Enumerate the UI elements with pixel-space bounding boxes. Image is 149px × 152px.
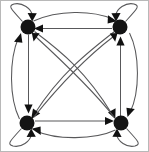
- top-left-node[interactable]: [21, 20, 36, 35]
- self-loop-top-right: [116, 4, 137, 22]
- bottom-right-node[interactable]: [114, 116, 129, 131]
- edge-top-left-to-bottom-left-arrowhead: [24, 105, 32, 114]
- edge-bottom-right-to-top-left-arrowhead: [32, 33, 40, 42]
- edge-top-left-to-top-right: [34, 12, 113, 21]
- bottom-left-node[interactable]: [20, 116, 35, 131]
- graph-figure: [0, 0, 149, 152]
- edge-top-right-to-bottom-left-arrowhead: [31, 108, 40, 119]
- edge-bottom-left-to-top-left: [11, 38, 19, 120]
- edge-bottom-right-to-bottom-left: [36, 130, 116, 138]
- diagonal-edge-group: [31, 32, 117, 120]
- right-edge-group: [116, 33, 137, 117]
- top-edge-group: [34, 12, 118, 32]
- edge-bottom-left-to-top-left-arrowhead: [14, 33, 22, 43]
- edge-bottom-left-to-bottom-right-arrowhead: [105, 117, 114, 125]
- self-loop-top-left: [11, 4, 32, 22]
- edge-bottom-left-to-top-right-arrowhead: [110, 33, 118, 42]
- edge-bottom-right-to-top-left: [36, 37, 115, 118]
- edge-top-right-to-bottom-right: [130, 33, 138, 113]
- graph-canvas: [0, 0, 149, 152]
- self-loop-bottom-right: [117, 129, 138, 147]
- edge-bottom-right-to-top-right-arrowhead: [116, 37, 124, 46]
- edge-top-right-to-bottom-right-arrowhead: [126, 108, 134, 117]
- self-loop-bottom-left: [10, 129, 31, 147]
- edge-bottom-left-to-top-right: [34, 37, 114, 118]
- bottom-edge-group: [32, 117, 116, 138]
- top-right-node[interactable]: [113, 20, 128, 35]
- left-edge-group: [11, 33, 32, 119]
